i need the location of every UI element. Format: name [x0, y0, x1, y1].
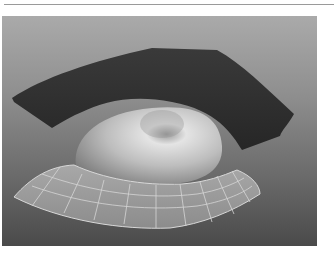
3d-viewport[interactable]: [2, 16, 317, 246]
top-divider: [4, 4, 334, 5]
eyeball[interactable]: [76, 107, 222, 184]
scene-render: [2, 16, 317, 246]
